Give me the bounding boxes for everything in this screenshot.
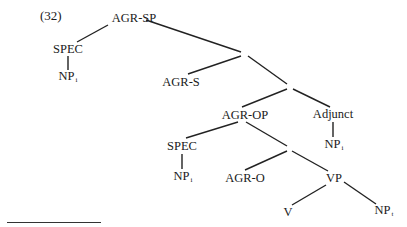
node-np-i-adjunct: NPi <box>325 137 344 155</box>
node-np-i-top: NPi <box>59 69 78 87</box>
edge-bar1-bar2 <box>248 56 287 84</box>
edge-agrop-bar3 <box>246 122 287 146</box>
node-agr-op: AGR-OP <box>222 108 269 122</box>
node-np-i-low: NPi <box>174 169 193 187</box>
node-agr-o: AGR-O <box>225 171 265 185</box>
footnote-rule <box>7 222 101 223</box>
node-agr-sp: AGR-SP <box>112 11 156 25</box>
node-spec-low: SPEC <box>167 139 197 153</box>
node-agr-s: AGR-S <box>162 75 200 89</box>
edge-agrsp-bar1 <box>146 20 241 52</box>
edge-agrsp-spec <box>77 25 108 42</box>
node-spec-top: SPEC <box>53 42 83 56</box>
edge-vp-v <box>292 185 326 205</box>
edge-bar3-agro <box>245 151 287 170</box>
edge-bar1-agrs <box>188 56 241 74</box>
edge-vp-npt <box>344 182 376 204</box>
node-v: V <box>283 205 292 219</box>
node-adjunct: Adjunct <box>313 107 353 121</box>
node-np-t: NPt <box>375 203 394 221</box>
edge-bar2-agrop <box>242 89 287 107</box>
edge-bar2-adjunct <box>293 89 330 107</box>
node-vp: VP <box>326 171 342 185</box>
edge-agrop-spec <box>186 122 238 138</box>
edge-bar3-vp <box>292 151 328 171</box>
